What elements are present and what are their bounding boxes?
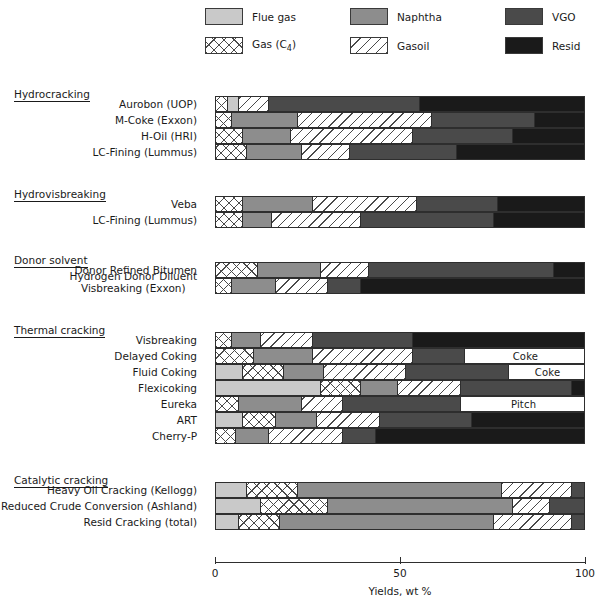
bar-segment-flue-gas: [227, 97, 238, 111]
bar-segment-flue-gas: [216, 483, 246, 497]
bar-segment-vgo: [312, 333, 412, 347]
bar-segment-gasoil: [271, 213, 360, 227]
bar-segment-resid: [412, 333, 585, 347]
bar-segment-gasoil: [301, 397, 342, 411]
bar-segment-gas-c4: [216, 145, 246, 159]
stacked-bar: [215, 380, 585, 396]
bar-segment-gasoil: [275, 279, 327, 293]
x-axis-title: Yields, wt %: [215, 585, 585, 597]
bar-segment-vgo: [360, 213, 493, 227]
bar-segment-resid: [534, 113, 585, 127]
bar-segment-naphtha: [238, 397, 301, 411]
bar-segment-resid: [493, 213, 585, 227]
x-axis-tick-label: 50: [393, 567, 406, 579]
bar-segment-gas-c4: [260, 499, 327, 513]
bar-segment-naphtha: [231, 113, 298, 127]
stacked-bar: [215, 412, 585, 428]
bar-segment-resid: [571, 381, 585, 395]
bar-segment-naphtha: [297, 483, 501, 497]
bar-segment-gas-c4: [320, 381, 361, 395]
plot-area: CokeCokePitch: [0, 0, 599, 604]
bar-segment-gasoil: [268, 429, 342, 443]
stacked-bar: Coke: [215, 348, 585, 364]
stacked-bar: [215, 144, 585, 160]
x-axis: Yields, wt % 050100: [215, 562, 585, 563]
stacked-bar: [215, 262, 585, 278]
bar-segment-gas-c4: [216, 213, 242, 227]
bar-segment-vgo: [416, 197, 497, 211]
stacked-bar: [215, 196, 585, 212]
bar-segment-naphtha: [242, 213, 272, 227]
stacked-bar: [215, 482, 585, 498]
bar-segment-flue-gas: [216, 381, 320, 395]
bar-segment-gas-c4: [216, 263, 257, 277]
bar-segment-gas-c4: [242, 365, 283, 379]
bar-segment-gasoil: [301, 145, 349, 159]
bar-segment-naphtha: [231, 279, 275, 293]
bar-segment-flue-gas: [216, 413, 242, 427]
bar-segment-gasoil: [238, 97, 268, 111]
bar-segment-vgo: [571, 483, 585, 497]
bar-segment-vgo: [268, 97, 420, 111]
bar-segment-naphtha: [242, 129, 290, 143]
bar-segment-naphtha: [275, 413, 316, 427]
bar-segment-vgo: [368, 263, 553, 277]
bar-segment-vgo: [342, 397, 460, 411]
stacked-bar: Coke: [215, 364, 585, 380]
bar-segment-gasoil: [290, 129, 412, 143]
bar-segment-gasoil: [260, 333, 312, 347]
bar-segment-gasoil: [397, 381, 460, 395]
x-axis-tick: [585, 557, 586, 564]
bar-segment-gas-c4: [216, 349, 253, 363]
bar-segment-gasoil: [297, 113, 430, 127]
bar-segment-vgo: [349, 145, 456, 159]
bar-segment-gas-c4: [216, 333, 231, 347]
bar-segment-naphtha: [327, 499, 512, 513]
bar-segment-coke: Coke: [464, 349, 585, 363]
x-axis-tick-label: 100: [575, 567, 595, 579]
bar-segment-gasoil: [316, 413, 379, 427]
bar-segment-naphtha: [242, 197, 312, 211]
bar-segment-flue-gas: [216, 499, 260, 513]
bar-segment-resid: [360, 279, 585, 293]
stacked-bar: [215, 332, 585, 348]
stacked-bar: [215, 498, 585, 514]
bar-segment-vgo: [412, 349, 464, 363]
bar-segment-resid: [512, 129, 585, 143]
bar-segment-gasoil: [323, 365, 404, 379]
bar-segment-flue-gas: [216, 515, 238, 529]
bar-segment-label: Coke: [465, 351, 585, 362]
bar-segment-coke: Coke: [508, 365, 585, 379]
bar-segment-naphtha: [279, 515, 494, 529]
stacked-bar: [215, 278, 585, 294]
bar-segment-naphtha: [246, 145, 302, 159]
bar-segment-gasoil: [312, 349, 412, 363]
bar-segment-resid: [456, 145, 585, 159]
bar-segment-naphtha: [235, 429, 268, 443]
bar-segment-vgo: [342, 429, 375, 443]
bar-segment-vgo: [431, 113, 535, 127]
stacked-bar: [215, 428, 585, 444]
x-axis-tick: [215, 557, 216, 564]
bar-segment-naphtha: [231, 333, 261, 347]
bar-segment-naphtha: [253, 349, 312, 363]
bar-segment-gas-c4: [216, 429, 235, 443]
bar-segment-vgo: [571, 515, 585, 529]
bar-segment-gasoil: [312, 197, 416, 211]
bar-segment-vgo: [405, 365, 509, 379]
bar-segment-vgo: [460, 381, 571, 395]
bar-segment-resid: [553, 263, 585, 277]
bar-segment-gasoil: [512, 499, 549, 513]
bar-segment-resid: [419, 97, 585, 111]
bar-segment-resid: [471, 413, 585, 427]
chart-root: Flue gas Gas (C4) Naphtha Gasoil VGO Res…: [0, 0, 599, 604]
stacked-bar: [215, 96, 585, 112]
bar-segment-gas-c4: [216, 397, 238, 411]
bar-segment-gas-c4: [216, 97, 227, 111]
bar-segment-vgo: [549, 499, 585, 513]
bar-segment-gasoil: [320, 263, 368, 277]
bar-segment-gas-c4: [216, 129, 242, 143]
stacked-bar: [215, 112, 585, 128]
bar-segment-gas-c4: [238, 515, 279, 529]
bar-segment-gas-c4: [242, 413, 275, 427]
